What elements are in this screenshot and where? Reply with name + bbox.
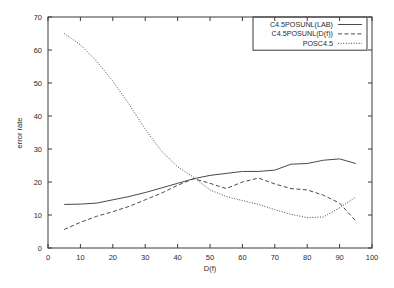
legend-label-0: C4.5POSUNL(LAB) bbox=[270, 20, 333, 29]
x-tick-label: 70 bbox=[271, 253, 279, 262]
line-chart: 0102030405060708090100010203040506070 C4… bbox=[0, 0, 394, 288]
y-tick-label: 40 bbox=[34, 112, 42, 121]
x-tick-label: 90 bbox=[335, 253, 343, 262]
y-tick-label: 20 bbox=[34, 178, 42, 187]
series-line-0 bbox=[64, 159, 356, 205]
x-tick-label: 60 bbox=[238, 253, 246, 262]
axis-ticks bbox=[48, 17, 372, 248]
x-tick-label: 50 bbox=[206, 253, 214, 262]
x-axis-title: D(f) bbox=[204, 264, 217, 273]
series-line-2 bbox=[64, 34, 356, 218]
x-tick-label: 80 bbox=[303, 253, 311, 262]
y-tick-label: 70 bbox=[34, 13, 42, 22]
x-tick-label: 0 bbox=[46, 253, 50, 262]
x-tick-label: 20 bbox=[109, 253, 117, 262]
x-tick-label: 30 bbox=[141, 253, 149, 262]
y-tick-label: 10 bbox=[34, 211, 42, 220]
y-tick-label: 60 bbox=[34, 46, 42, 55]
x-tick-label: 40 bbox=[173, 253, 181, 262]
y-tick-label: 0 bbox=[38, 244, 42, 253]
legend-label-1: C4.5POSUNL(D(f)) bbox=[271, 29, 333, 38]
y-axis-title: error rate bbox=[15, 118, 24, 149]
series-line-1 bbox=[64, 178, 356, 229]
plot-frame bbox=[48, 17, 372, 248]
chart-legend: C4.5POSUNL(LAB)C4.5POSUNL(D(f))POSC4.5 bbox=[253, 17, 367, 50]
x-tick-label: 100 bbox=[366, 253, 379, 262]
y-tick-label: 30 bbox=[34, 145, 42, 154]
legend-label-2: POSC4.5 bbox=[303, 39, 333, 48]
chart-page: 0102030405060708090100010203040506070 C4… bbox=[0, 0, 394, 288]
data-series bbox=[64, 34, 356, 230]
y-tick-label: 50 bbox=[34, 79, 42, 88]
x-tick-label: 10 bbox=[76, 253, 84, 262]
plot-axes bbox=[48, 17, 372, 248]
